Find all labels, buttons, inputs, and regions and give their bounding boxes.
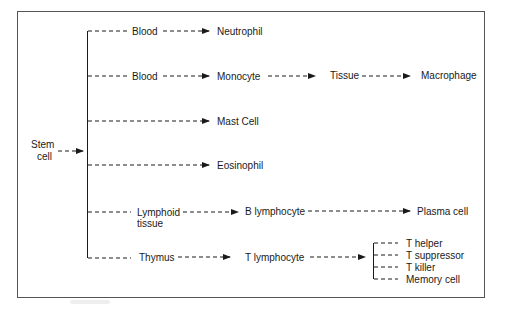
node-blood-2: Blood: [132, 71, 158, 82]
node-macrophage: Macrophage: [421, 70, 477, 81]
node-t-lymphocyte: T lymphocyte: [245, 252, 304, 263]
node-thymus: Thymus: [139, 252, 175, 263]
node-mast-cell: Mast Cell: [217, 116, 259, 127]
scan-artifact: [70, 300, 110, 304]
stem-cell-label-2: cell: [37, 151, 52, 162]
node-t-suppressor: T suppressor: [406, 250, 464, 261]
node-t-helper: T helper: [406, 238, 443, 249]
node-monocyte: Monocyte: [217, 71, 260, 82]
node-eosinophil: Eosinophil: [217, 160, 263, 171]
node-blood-1: Blood: [132, 26, 158, 37]
node-tissue: Tissue: [330, 70, 359, 81]
node-plasma-cell: Plasma cell: [417, 206, 468, 217]
node-lymphoid-tissue: Lymphoid: [137, 207, 180, 218]
stem-cell-label: Stem: [31, 139, 54, 150]
node-memory-cell: Memory cell: [406, 274, 460, 285]
node-neutrophil: Neutrophil: [217, 26, 263, 37]
node-lymphoid-tissue-2: tissue: [137, 218, 163, 229]
node-t-killer: T killer: [406, 262, 435, 273]
node-b-lymphocyte: B lymphocyte: [245, 206, 305, 217]
